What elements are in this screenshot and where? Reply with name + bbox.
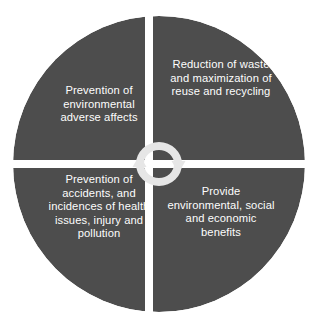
quadrant-top-left[interactable]: Prevention of environmental adverse affe… [13,16,159,164]
quadrant-bottom-right[interactable]: Provide environmental, social and econom… [159,164,305,312]
quadrant-bottom-left[interactable]: Prevention of accidents, and incidences … [13,164,159,312]
quadrant-bottom-left-label: Prevention of accidents, and incidences … [45,173,153,241]
divider-horizontal [0,160,318,168]
quadrant-bottom-right-label: Provide environmental, social and econom… [167,185,275,239]
quadrant-top-right[interactable]: Reduction of waste and maximization of r… [159,16,305,164]
quadrant-top-right-label: Reduction of waste and maximization of r… [167,58,275,99]
diagram-canvas: Prevention of environmental adverse affe… [0,0,318,328]
quadrant-top-left-label: Prevention of environmental adverse affe… [45,84,153,125]
